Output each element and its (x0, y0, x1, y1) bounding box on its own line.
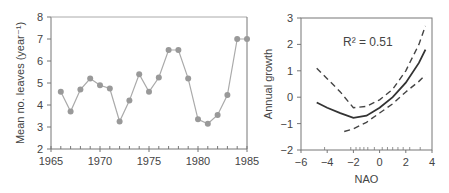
data-point (234, 36, 240, 42)
x-tick-label: 4 (429, 156, 435, 168)
x-tick-label: −4 (321, 156, 334, 168)
data-point (205, 121, 211, 127)
data-point (175, 47, 181, 53)
y-tick-label: 3 (287, 12, 293, 24)
x-tick-label: −6 (295, 156, 308, 168)
x-tick-label: 0 (377, 156, 383, 168)
y-tick-label: 0 (287, 91, 293, 103)
r-squared-annotation: R² = 0.51 (343, 35, 393, 49)
data-point (156, 75, 162, 81)
y-tick-label: 3 (37, 121, 43, 133)
data-point (107, 86, 113, 92)
y-tick-label: 8 (37, 11, 43, 23)
data-point (136, 71, 142, 77)
y-axis-label: Annual growth (262, 49, 274, 119)
data-point (146, 89, 152, 95)
x-axis-label: NAO (355, 173, 379, 185)
x-tick-label: 2 (403, 156, 409, 168)
data-line (61, 39, 247, 124)
data-point (195, 116, 201, 122)
y-tick-label: 1 (287, 65, 293, 77)
y-tick-label: 7 (37, 33, 43, 45)
x-tick-label: 1975 (137, 155, 161, 167)
leaves-per-year-chart: 234567819651970197519801985Mean no. leav… (14, 11, 259, 167)
y-tick-label: 2 (287, 38, 293, 50)
data-point (185, 76, 191, 82)
data-point (117, 119, 123, 125)
growth-vs-nao-chart: −2−10123−6−4−2024NAOAnnual growthR² = 0.… (262, 12, 435, 185)
data-point (77, 87, 83, 93)
y-tick-label: 5 (37, 77, 43, 89)
data-point (215, 112, 221, 118)
x-tick-label: 1970 (88, 155, 112, 167)
data-point (166, 47, 172, 53)
y-tick-label: −2 (280, 144, 293, 156)
x-tick-label: 1980 (186, 155, 210, 167)
y-tick-label: 4 (37, 99, 43, 111)
x-tick-label: 1985 (235, 155, 259, 167)
x-tick-label: −2 (347, 156, 360, 168)
y-axis-label: Mean no. leaves (year⁻¹) (14, 22, 26, 144)
figure: 234567819651970197519801985Mean no. leav… (0, 0, 449, 193)
data-point (244, 36, 250, 42)
data-point (68, 109, 74, 115)
data-point (97, 82, 103, 88)
data-point (224, 92, 230, 98)
data-point (126, 98, 132, 104)
data-point (58, 89, 64, 95)
y-tick-label: 2 (37, 143, 43, 155)
x-tick-label: 1965 (39, 155, 63, 167)
data-point (87, 76, 93, 82)
y-tick-label: 6 (37, 55, 43, 67)
y-tick-label: −1 (280, 118, 293, 130)
